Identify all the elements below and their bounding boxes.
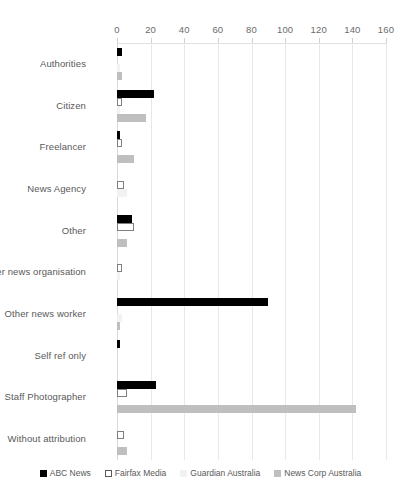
bar-news-corp-australia	[117, 405, 356, 413]
bar-news-corp-australia	[117, 155, 134, 163]
legend-label: ABC News	[50, 468, 91, 478]
category-label-news-agency: News Agency	[0, 183, 86, 194]
legend-item-news-corp-australia[interactable]: News Corp Australia	[274, 468, 361, 478]
bar-fairfax-media	[117, 98, 122, 106]
legend-item-guardian-australia[interactable]: Guardian Australia	[180, 468, 260, 478]
category-row: News Agency	[0, 168, 401, 210]
category-row: Authorities	[0, 43, 401, 85]
x-tick-label-0: 0	[114, 24, 119, 35]
bar-fairfax-media	[117, 431, 124, 439]
category-label-other-news-worker: Other news worker	[0, 308, 86, 319]
legend-item-abc-news[interactable]: ABC News	[40, 468, 91, 478]
category-row: Other news organisation	[0, 252, 401, 294]
bar-news-corp-australia	[117, 114, 146, 122]
legend-swatch-icon	[180, 470, 187, 477]
bar-chart: 020406080100120140160 AuthoritiesCitizen…	[0, 0, 401, 499]
category-row: Self ref only	[0, 335, 401, 377]
bar-fairfax-media	[117, 264, 122, 272]
bar-fairfax-media	[117, 181, 124, 189]
x-tick-label-20: 20	[145, 24, 156, 35]
category-label-staff-photographer: Staff Photographer	[0, 391, 86, 402]
bar-news-corp-australia	[117, 322, 120, 330]
bar-abc-news	[117, 48, 122, 56]
category-label-other: Other	[0, 225, 86, 236]
legend-swatch-icon	[105, 470, 112, 477]
bar-guardian-australia	[117, 314, 122, 322]
x-tick-label-40: 40	[179, 24, 190, 35]
bar-news-corp-australia	[117, 447, 127, 455]
category-row: Other	[0, 210, 401, 252]
category-label-without-attribution: Without attribution	[0, 433, 86, 444]
bar-abc-news	[117, 381, 156, 389]
x-tick-label-160: 160	[378, 24, 394, 35]
category-row: Citizen	[0, 85, 401, 127]
legend-label: Fairfax Media	[115, 468, 167, 478]
x-tick-label-100: 100	[277, 24, 293, 35]
bar-fairfax-media	[117, 223, 134, 231]
legend-label: News Corp Australia	[284, 468, 361, 478]
bar-guardian-australia	[117, 189, 127, 197]
bar-guardian-australia	[117, 272, 120, 280]
bar-fairfax-media	[117, 139, 122, 147]
legend-item-fairfax-media[interactable]: Fairfax Media	[105, 468, 167, 478]
bar-abc-news	[117, 90, 154, 98]
x-tick-label-80: 80	[246, 24, 257, 35]
legend-label: Guardian Australia	[190, 468, 260, 478]
category-row: Staff Photographer	[0, 377, 401, 419]
bar-abc-news	[117, 215, 132, 223]
x-tick-label-140: 140	[344, 24, 360, 35]
category-label-other-news-organisation: Other news organisation	[0, 266, 86, 277]
x-tick-label-120: 120	[311, 24, 327, 35]
category-label-freelancer: Freelancer	[0, 141, 86, 152]
bar-fairfax-media	[117, 389, 127, 397]
legend-swatch-icon	[274, 470, 281, 477]
bar-guardian-australia	[117, 64, 120, 72]
category-label-authorities: Authorities	[0, 58, 86, 69]
bar-guardian-australia	[117, 106, 120, 114]
category-row: Without attribution	[0, 418, 401, 460]
bar-abc-news	[117, 131, 120, 139]
bar-news-corp-australia	[117, 239, 127, 247]
bar-news-corp-australia	[117, 72, 122, 80]
category-label-self-ref-only: Self ref only	[0, 350, 86, 361]
category-row: Freelancer	[0, 126, 401, 168]
legend-swatch-icon	[40, 470, 47, 477]
x-tick-label-60: 60	[212, 24, 223, 35]
bar-abc-news	[117, 340, 120, 348]
bar-abc-news	[117, 298, 268, 306]
category-label-citizen: Citizen	[0, 100, 86, 111]
chart-legend: ABC NewsFairfax MediaGuardian AustraliaN…	[0, 468, 401, 478]
category-row: Other news worker	[0, 293, 401, 335]
